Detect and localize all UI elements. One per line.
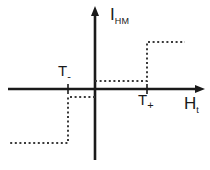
tick-label-t-minus-base: T: [58, 62, 67, 79]
tick-label-t-plus: T+: [138, 92, 154, 111]
y-axis-label-subscript: HM: [115, 16, 130, 26]
tick-label-t-plus-subscript: +: [147, 99, 154, 111]
y-axis-arrowhead: [91, 6, 99, 16]
tick-label-t-plus-base: T: [138, 91, 147, 108]
x-axis-label-base: H: [184, 94, 196, 113]
hysteresis-figure: IHM Ht T- T+: [0, 0, 210, 170]
hysteresis-ascending-branch: [95, 42, 185, 81]
tick-label-t-minus: T-: [58, 63, 71, 82]
tick-label-t-minus-subscript: -: [67, 70, 71, 82]
plot-canvas: [0, 0, 210, 170]
x-axis-label: Ht: [184, 95, 199, 115]
hysteresis-descending-branch: [8, 97, 95, 143]
y-axis: [91, 6, 99, 160]
x-axis: [8, 85, 205, 93]
x-axis-label-subscript: t: [196, 105, 199, 115]
x-axis-arrowhead: [195, 85, 205, 93]
y-axis-label: IHM: [110, 6, 129, 26]
